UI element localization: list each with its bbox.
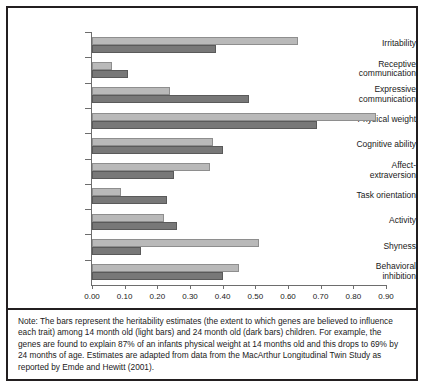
bar-light-4: [92, 138, 213, 146]
x-axis-tick-label-9: 0.90: [371, 292, 401, 301]
bar-dark-8: [92, 247, 141, 255]
bar-light-7: [92, 214, 164, 222]
bar-dark-4: [92, 146, 223, 154]
y-axis-tick: [85, 108, 91, 109]
bar-dark-0: [92, 45, 216, 53]
bar-dark-7: [92, 222, 177, 230]
y-axis-tick: [85, 234, 91, 235]
x-axis-tick-3: [190, 285, 191, 289]
x-axis-tick-6: [288, 285, 289, 289]
chart-plot-area: IrritabilityReceptive communicationExpre…: [8, 8, 416, 308]
bar-light-6: [92, 188, 121, 196]
y-axis-label-7: Activity: [342, 216, 416, 226]
y-axis-label-9: Behavioral inhibition: [342, 262, 416, 282]
bar-light-3: [92, 113, 376, 121]
bar-light-0: [92, 37, 298, 45]
x-axis-tick-label-4: 0.40: [208, 292, 238, 301]
bar-light-9: [92, 264, 239, 272]
x-axis-tick-7: [321, 285, 322, 289]
y-axis-label-5: Affect- extraversion: [342, 161, 416, 181]
x-axis-tick-9: [386, 285, 387, 289]
y-axis-tick: [85, 83, 91, 84]
y-axis-tick: [85, 184, 91, 185]
bar-dark-2: [92, 95, 249, 103]
bar-light-2: [92, 87, 170, 95]
x-axis-tick-label-0: 0.00: [77, 292, 107, 301]
y-axis-tick: [85, 133, 91, 134]
y-axis-tick: [85, 32, 91, 33]
y-axis-label-2: Expressive communication: [342, 85, 416, 105]
x-axis-tick-label-7: 0.70: [306, 292, 336, 301]
x-axis-tick-label-3: 0.30: [175, 292, 205, 301]
bar-dark-3: [92, 121, 317, 129]
figure-frame: IrritabilityReceptive communicationExpre…: [6, 6, 418, 381]
x-axis-tick-0: [92, 285, 93, 289]
bar-dark-1: [92, 70, 128, 78]
y-axis-label-8: Shyness: [342, 242, 416, 252]
bar-light-1: [92, 62, 112, 70]
x-axis-tick-label-2: 0.20: [142, 292, 172, 301]
y-axis-label-1: Receptive communication: [342, 60, 416, 80]
y-axis-tick: [85, 159, 91, 160]
x-axis-tick-5: [255, 285, 256, 289]
x-axis-tick-2: [157, 285, 158, 289]
y-axis-tick: [85, 57, 91, 58]
bar-dark-6: [92, 196, 167, 204]
x-axis-tick-4: [223, 285, 224, 289]
y-axis-label-4: Cognitive ability: [342, 140, 416, 150]
y-axis-label-0: Irritability: [342, 39, 416, 49]
bar-dark-9: [92, 272, 223, 280]
y-axis-tick: [85, 260, 91, 261]
x-axis-tick-8: [353, 285, 354, 289]
x-axis-line: [91, 285, 386, 286]
bar-dark-5: [92, 171, 174, 179]
x-axis-tick-1: [125, 285, 126, 289]
x-axis-tick-label-1: 0.10: [110, 292, 140, 301]
bar-light-5: [92, 163, 210, 171]
x-axis-tick-label-5: 0.50: [240, 292, 270, 301]
y-axis-tick: [85, 209, 91, 210]
x-axis-tick-label-8: 0.80: [338, 292, 368, 301]
bar-light-8: [92, 239, 259, 247]
y-axis-label-6: Task orientation: [342, 191, 416, 201]
chart-note: Note: The bars represent the heritabilit…: [8, 310, 416, 379]
x-axis-tick-label-6: 0.60: [273, 292, 303, 301]
